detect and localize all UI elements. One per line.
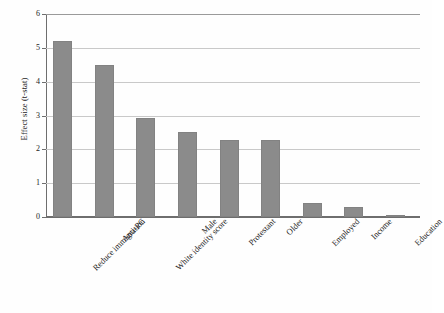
x-axis-label-text: Older [284, 217, 304, 237]
y-tick-label: 0 [36, 213, 40, 221]
y-tick-label: 6 [36, 10, 40, 18]
tick-mark [42, 48, 46, 49]
bar [178, 132, 197, 217]
y-tick-label: 4 [36, 78, 40, 86]
y-tick-label: 2 [36, 145, 40, 153]
bar [220, 140, 239, 217]
plot-area: 0123456 [46, 14, 420, 217]
x-axis-label: Employed [330, 217, 361, 248]
x-axis-label: Education [413, 217, 444, 248]
x-axis-labels-group: Reduce immigrationAnti-PCWhite identity … [46, 217, 432, 313]
bar [303, 203, 322, 217]
bar [261, 140, 280, 217]
bar [53, 41, 72, 217]
x-axis-label: Older [284, 217, 304, 237]
tick-mark [42, 14, 46, 15]
x-axis-label-text: Employed [330, 217, 361, 248]
y-tick-label: 1 [36, 179, 40, 187]
gridline-6 [46, 14, 420, 15]
x-axis-label-text: Protestant [247, 217, 278, 248]
x-axis-label-text: Income [369, 217, 394, 242]
y-axis-title: Effect size (t-stat) [19, 39, 29, 179]
tick-mark [42, 149, 46, 150]
tick-mark [42, 116, 46, 117]
bar [95, 65, 114, 217]
gridline-5 [46, 48, 420, 49]
x-axis-label: Anti-PC [121, 217, 148, 244]
y-tick-label: 3 [36, 112, 40, 120]
x-axis-label: Income [369, 217, 394, 242]
bar [136, 118, 155, 217]
x-axis-label-text: Anti-PC [121, 217, 148, 244]
tick-mark [42, 183, 46, 184]
y-tick-label: 5 [36, 44, 40, 52]
tick-mark [42, 82, 46, 83]
x-axis-label-text: Education [413, 217, 444, 248]
x-axis-label: Protestant [247, 217, 278, 248]
